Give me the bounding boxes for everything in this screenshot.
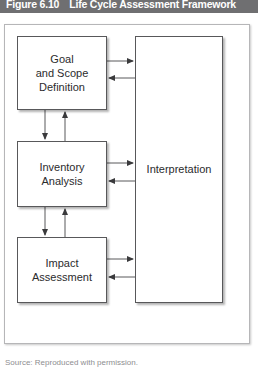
node-inventory-label: Inventory Analysis bbox=[39, 160, 84, 188]
node-interpretation[interactable]: Interpretation bbox=[135, 36, 223, 303]
lca-framework-diagram: Goal and Scope Definition Inventory Anal… bbox=[5, 25, 251, 345]
node-goal-line1: Goal bbox=[50, 53, 73, 65]
node-inventory-line1: Inventory bbox=[39, 161, 84, 173]
figure-header-bar: Figure 6.10 Life Cycle Assessment Framew… bbox=[0, 0, 258, 13]
node-impact-line1: Impact bbox=[45, 257, 78, 269]
figure-title-label: Life Cycle Assessment Framework bbox=[69, 0, 236, 10]
node-impact-line2: Assessment bbox=[32, 271, 92, 283]
node-impact-label: Impact Assessment bbox=[32, 256, 92, 284]
figure-frame: Goal and Scope Definition Inventory Anal… bbox=[4, 24, 250, 344]
node-goal-and-scope-definition[interactable]: Goal and Scope Definition bbox=[17, 36, 107, 110]
node-interpretation-label: Interpretation bbox=[147, 162, 212, 176]
figure-number-label: Figure 6.10 bbox=[6, 0, 59, 10]
node-impact-assessment[interactable]: Impact Assessment bbox=[17, 237, 107, 303]
node-goal-line2: and Scope bbox=[36, 67, 89, 79]
node-inventory-line2: Analysis bbox=[42, 175, 83, 187]
source-caption-text: Source: Reproduced with permission. bbox=[5, 360, 138, 367]
node-inventory-analysis[interactable]: Inventory Analysis bbox=[17, 141, 107, 207]
node-goal-label: Goal and Scope Definition bbox=[36, 52, 89, 94]
source-caption-row: Source: Reproduced with permission. bbox=[0, 360, 258, 368]
figure-header-content: Figure 6.10 Life Cycle Assessment Framew… bbox=[0, 0, 258, 13]
node-goal-line3: Definition bbox=[39, 81, 85, 93]
